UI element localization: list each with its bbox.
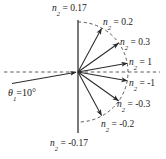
refraction-diagram: n2 = 0.17 n2 = 0.2 n2 = 0.3 n2 = 1 n2 = … xyxy=(0,0,166,159)
label-n2-minus-0-3: n2 = -0.3 xyxy=(117,100,150,110)
label-n2-minus-0-17: n2 = -0.17 xyxy=(50,139,88,149)
label-n2-0-3-value: = 0.3 xyxy=(128,37,150,47)
label-n2-0-2-sub: 2 xyxy=(108,24,111,31)
label-n2-minus-1-value: = -1 xyxy=(137,78,155,88)
theta-subscript: 1 xyxy=(13,95,16,102)
label-n2-1: n2 = 1 xyxy=(129,58,152,68)
refracted-ray-n2-minus-1 xyxy=(78,72,127,81)
label-n2-0-2-value: = 0.2 xyxy=(111,17,133,27)
label-n2-minus-1-sub: 2 xyxy=(134,85,137,92)
refracted-ray-n2-1 xyxy=(78,63,127,72)
label-n2-1-sub: 2 xyxy=(134,64,137,71)
label-n2-0-17-sub: 2 xyxy=(57,10,60,17)
label-n2-0-17: n2 = 0.17 xyxy=(52,4,87,14)
label-n2-0-2: n2 = 0.2 xyxy=(103,18,133,28)
label-n2-1-value: = 1 xyxy=(137,57,152,67)
label-n2-minus-0-17-sub: 2 xyxy=(55,145,58,152)
incident-ray xyxy=(12,72,76,83)
label-incident-angle: θ1=10° xyxy=(8,88,36,98)
label-n2-minus-0-3-sub: 2 xyxy=(122,106,125,113)
label-n2-minus-0-3-value: = -0.3 xyxy=(125,99,150,109)
label-n2-minus-0-2-value: = -0.2 xyxy=(109,119,134,129)
refracted-ray-n2-0-3 xyxy=(78,43,119,72)
label-n2-minus-0-2-sub: 2 xyxy=(106,126,109,133)
label-n2-minus-0-2: n2 = -0.2 xyxy=(101,120,134,130)
label-n2-minus-0-17-value: = -0.17 xyxy=(58,138,88,148)
label-n2-0-3-sub: 2 xyxy=(125,44,128,51)
theta-value: =10° xyxy=(16,87,36,98)
label-n2-0-3: n2 = 0.3 xyxy=(120,38,150,48)
refracted-ray-n2-minus-0-2 xyxy=(78,72,102,115)
label-n2-0-17-value: = 0.17 xyxy=(60,3,87,13)
refracted-ray-n2-minus-0-3 xyxy=(78,72,119,101)
refracted-ray-n2-0-2 xyxy=(78,29,102,72)
label-n2-minus-1: n2 = -1 xyxy=(129,79,155,89)
